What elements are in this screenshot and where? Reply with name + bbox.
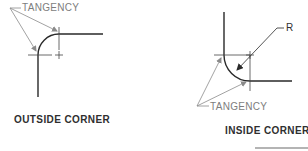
outside-corner-caption: OUTSIDE CORNER [14, 115, 110, 125]
outside-tangency-label: TANGENCY [22, 3, 79, 13]
inside-corner-figure [197, 12, 292, 106]
inside-tangency-label: TANGENCY [210, 102, 267, 112]
inside-corner-caption: INSIDE CORNER [225, 126, 308, 136]
radius-label: R [286, 23, 294, 33]
outside-corner-figure [10, 8, 103, 97]
outside-corner-profile [38, 34, 103, 97]
radius-leader-arrow [237, 28, 277, 70]
inside-corner-profile [224, 12, 292, 81]
inside-leader-arrow-upper [197, 58, 221, 106]
